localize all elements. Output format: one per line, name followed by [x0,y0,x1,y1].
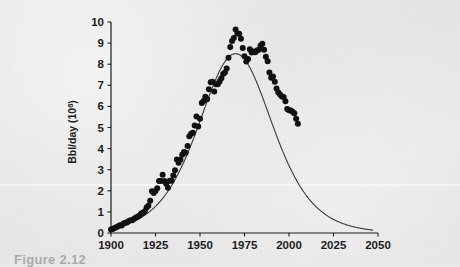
data-points-group [108,27,301,233]
y-axis-label: Bbl/day (106) [66,100,79,164]
svg-text:7: 7 [98,79,104,91]
svg-text:1975: 1975 [232,239,258,251]
svg-text:10: 10 [91,16,104,28]
svg-text:1925: 1925 [143,239,169,251]
x-tick-labels: 1900192519501975200020252050 [98,239,391,251]
svg-text:3: 3 [98,164,104,176]
svg-text:0: 0 [98,227,104,239]
svg-text:8: 8 [98,58,105,70]
svg-text:4: 4 [98,143,105,155]
svg-text:5: 5 [98,122,105,134]
svg-text:2: 2 [98,185,104,197]
svg-text:1900: 1900 [98,239,124,251]
svg-text:1: 1 [98,206,105,218]
svg-text:1950: 1950 [187,239,213,251]
y-tick-labels: 012345678910 [91,16,104,239]
svg-text:2050: 2050 [365,239,391,251]
svg-text:2000: 2000 [276,239,302,251]
figure-caption: Figure 2.12 [14,252,86,267]
svg-text:Bbl/day (106): Bbl/day (106) [66,100,79,164]
svg-text:6: 6 [98,100,104,112]
svg-text:9: 9 [98,37,104,49]
svg-text:2025: 2025 [321,239,347,251]
